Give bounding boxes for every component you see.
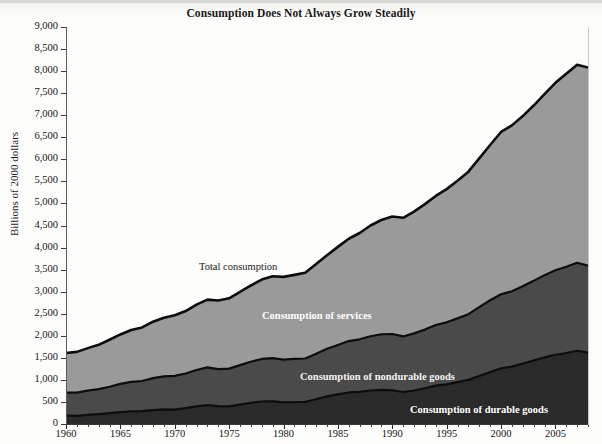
x-tick-minor — [305, 425, 306, 427]
y-tick-label: 7,500 — [12, 86, 58, 97]
x-tick-minor — [436, 425, 437, 427]
x-tick-label: 1990 — [367, 428, 417, 439]
x-tick-minor — [414, 425, 415, 427]
y-tick-mark — [61, 292, 66, 293]
x-tick-minor — [534, 425, 535, 427]
y-tick-label: 9,000 — [12, 20, 58, 31]
x-tick-mark — [447, 425, 448, 429]
y-tick-mark — [61, 115, 66, 116]
x-tick-minor — [131, 425, 132, 427]
y-tick-label: 8,500 — [12, 42, 58, 53]
x-tick-label: 2005 — [530, 428, 580, 439]
y-tick-label: 3,000 — [12, 285, 58, 296]
x-tick-minor — [294, 425, 295, 427]
x-tick-mark — [175, 425, 176, 429]
x-tick-mark — [555, 425, 556, 429]
y-tick-label: 1,500 — [12, 351, 58, 362]
x-tick-minor — [381, 425, 382, 427]
y-tick-mark — [61, 93, 66, 94]
x-tick-label: 1995 — [422, 428, 472, 439]
x-tick-label: 1975 — [204, 428, 254, 439]
y-tick-mark — [61, 358, 66, 359]
y-tick-label: 5,500 — [12, 174, 58, 185]
x-tick-label: 1985 — [313, 428, 363, 439]
plot-right-border — [588, 27, 589, 425]
y-tick-label: 500 — [12, 395, 58, 406]
x-tick-mark — [392, 425, 393, 429]
x-tick-minor — [251, 425, 252, 427]
y-axis-line — [66, 27, 67, 425]
y-tick-label: 8,000 — [12, 64, 58, 75]
y-tick-label: 4,500 — [12, 219, 58, 230]
series-label-nondurable: Consumption of nondurable goods — [300, 371, 455, 382]
x-tick-mark — [120, 425, 121, 429]
x-tick-minor — [77, 425, 78, 427]
x-tick-minor — [88, 425, 89, 427]
y-tick-mark — [61, 402, 66, 403]
y-tick-label: 1,000 — [12, 373, 58, 384]
y-tick-label: 2,500 — [12, 307, 58, 318]
x-tick-minor — [142, 425, 143, 427]
y-tick-mark — [61, 270, 66, 271]
x-tick-minor — [512, 425, 513, 427]
x-tick-minor — [110, 425, 111, 427]
series-label-services: Consumption of services — [262, 310, 372, 321]
x-tick-minor — [327, 425, 328, 427]
y-tick-label: 6,500 — [12, 130, 58, 141]
x-tick-minor — [490, 425, 491, 427]
x-tick-minor — [458, 425, 459, 427]
x-tick-minor — [262, 425, 263, 427]
x-tick-minor — [479, 425, 480, 427]
x-tick-minor — [153, 425, 154, 427]
y-tick-label: 0 — [12, 417, 58, 428]
x-tick-minor — [371, 425, 372, 427]
y-tick-mark — [61, 380, 66, 381]
x-tick-minor — [566, 425, 567, 427]
x-tick-minor — [468, 425, 469, 427]
y-tick-label: 3,500 — [12, 263, 58, 274]
y-tick-mark — [61, 27, 66, 28]
x-tick-mark — [284, 425, 285, 429]
series-label-total: Total consumption — [199, 261, 277, 272]
x-tick-minor — [218, 425, 219, 427]
x-tick-mark — [229, 425, 230, 429]
x-tick-minor — [545, 425, 546, 427]
x-tick-minor — [207, 425, 208, 427]
y-tick-mark — [61, 248, 66, 249]
y-tick-label: 5,000 — [12, 196, 58, 207]
y-tick-mark — [61, 159, 66, 160]
x-tick-label: 1960 — [41, 428, 91, 439]
y-tick-mark — [61, 49, 66, 50]
x-tick-label: 1965 — [95, 428, 145, 439]
x-tick-minor — [403, 425, 404, 427]
y-tick-mark — [61, 314, 66, 315]
y-tick-mark — [61, 71, 66, 72]
y-tick-mark — [61, 226, 66, 227]
x-tick-minor — [425, 425, 426, 427]
x-tick-mark — [501, 425, 502, 429]
x-tick-minor — [349, 425, 350, 427]
x-tick-minor — [240, 425, 241, 427]
y-tick-label: 7,000 — [12, 108, 58, 119]
x-tick-minor — [186, 425, 187, 427]
x-tick-mark — [338, 425, 339, 429]
x-tick-label: 2000 — [476, 428, 526, 439]
series-label-durable: Consumption of durable goods — [410, 404, 548, 415]
y-tick-mark — [61, 181, 66, 182]
x-tick-minor — [164, 425, 165, 427]
x-tick-minor — [99, 425, 100, 427]
x-tick-mark — [66, 425, 67, 429]
x-tick-minor — [523, 425, 524, 427]
y-tick-mark — [61, 203, 66, 204]
figure-canvas: Consumption Does Not Always Grow Steadil… — [0, 0, 602, 444]
x-tick-minor — [273, 425, 274, 427]
x-tick-minor — [360, 425, 361, 427]
x-tick-label: 1970 — [150, 428, 200, 439]
x-tick-label: 1980 — [259, 428, 309, 439]
y-tick-label: 6,000 — [12, 152, 58, 163]
x-tick-minor — [316, 425, 317, 427]
y-tick-mark — [61, 336, 66, 337]
plot-area: 9,0008,5008,0007,5007,0006,5006,0005,500… — [0, 0, 602, 444]
y-tick-label: 2,000 — [12, 329, 58, 340]
x-tick-minor — [588, 425, 589, 427]
